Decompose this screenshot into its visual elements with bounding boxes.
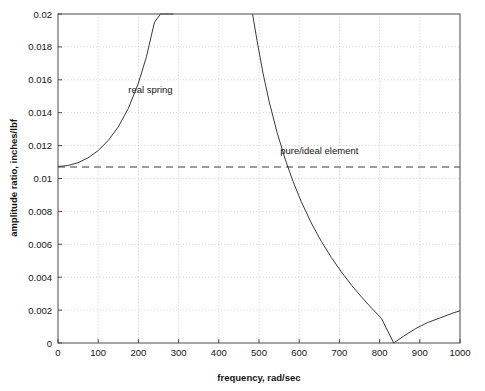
x-tick-label: 600 <box>291 347 307 358</box>
y-tick-label: 0.014 <box>28 107 52 118</box>
annotation-label: pure/ideal element <box>280 145 359 156</box>
chart-canvas: 01002003004005006007008009001000 00.0020… <box>0 0 485 391</box>
y-tick-label: 0.018 <box>28 41 52 52</box>
x-tick-label: 1000 <box>449 347 470 358</box>
x-tick-label: 200 <box>130 347 146 358</box>
y-tick-label: 0 <box>47 338 52 349</box>
x-tick-label: 900 <box>412 347 428 358</box>
x-tick-label: 800 <box>372 347 388 358</box>
y-tick-label: 0.006 <box>28 239 52 250</box>
x-tick-label: 300 <box>171 347 187 358</box>
x-tick-label: 500 <box>251 347 267 358</box>
y-tick-label: 0.004 <box>28 272 52 283</box>
x-tick-label: 400 <box>211 347 227 358</box>
y-tick-label: 0.002 <box>28 305 52 316</box>
x-tick-label: 700 <box>331 347 347 358</box>
y-axis-label: amplitude ratio, inches/lbf <box>8 118 19 237</box>
y-axis-tick-labels: 00.0020.0040.0060.0080.010.0120.0140.016… <box>28 9 52 349</box>
y-tick-label: 0.012 <box>28 140 52 151</box>
plot-background <box>58 14 460 343</box>
amplitude-ratio-frequency-chart: 01002003004005006007008009001000 00.0020… <box>0 0 485 391</box>
y-tick-label: 0.016 <box>28 74 52 85</box>
y-tick-label: 0.01 <box>34 173 53 184</box>
x-axis-label: frequency, rad/sec <box>217 372 300 383</box>
x-tick-label: 100 <box>90 347 106 358</box>
y-tick-label: 0.02 <box>34 9 53 20</box>
annotation-label: real spring <box>128 84 172 95</box>
y-tick-label: 0.008 <box>28 206 52 217</box>
x-tick-label: 0 <box>55 347 60 358</box>
x-axis-tick-labels: 01002003004005006007008009001000 <box>55 347 470 358</box>
